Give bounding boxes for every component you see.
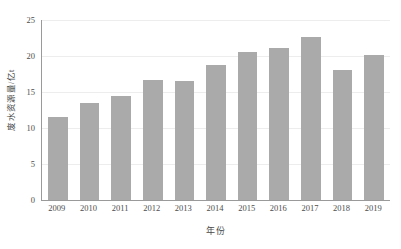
x-tick-label: 2015 — [238, 203, 255, 213]
x-tick-label: 2018 — [333, 203, 350, 213]
y-tick-label: 25 — [27, 16, 36, 25]
y-axis-tick-labels: 0510152025 — [16, 14, 38, 208]
x-tick-label: 2011 — [112, 203, 129, 213]
y-tick-label: 10 — [27, 124, 36, 133]
bar — [111, 96, 131, 200]
bars-layer — [42, 20, 390, 200]
x-axis-title: 年份 — [41, 224, 390, 237]
bar — [80, 103, 100, 200]
x-tick-label: 2013 — [175, 203, 192, 213]
y-tick-label: 20 — [27, 52, 36, 61]
x-tick-label: 2010 — [80, 203, 97, 213]
x-tick-label: 2017 — [301, 203, 318, 213]
x-tick-label: 2012 — [143, 203, 160, 213]
y-tick-label: 0 — [31, 196, 35, 205]
bar — [206, 65, 226, 200]
y-axis-title-text: 废水资源量/亿t — [4, 69, 16, 130]
x-axis-tick-labels: 2009201020112012201320142015201620172018… — [41, 203, 390, 219]
bar — [238, 52, 258, 200]
x-tick-label: 2009 — [48, 203, 65, 213]
bar — [301, 37, 321, 200]
bar — [175, 81, 195, 200]
x-tick-label: 2019 — [365, 203, 382, 213]
bar — [269, 48, 289, 200]
x-tick-label: 2014 — [207, 203, 224, 213]
bar — [143, 80, 163, 200]
x-tick-label: 2016 — [270, 203, 287, 213]
y-tick-label: 15 — [27, 88, 36, 97]
y-tick-label: 5 — [31, 160, 35, 169]
bar — [48, 117, 68, 200]
bar — [333, 70, 353, 200]
bar-chart: 废水资源量/亿t 0510152025 20092010201120122013… — [0, 0, 401, 249]
bar — [364, 55, 384, 200]
plot-area — [41, 20, 390, 201]
